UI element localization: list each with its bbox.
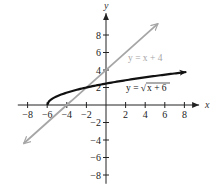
y-tick-label: −6 (90, 152, 101, 163)
label-radicand: x + 6 (147, 83, 167, 93)
label-y-equals-x-plus-4: y = x + 4 (128, 53, 163, 63)
x-tick-label: 2 (123, 109, 128, 120)
label-text: y = √ (126, 83, 147, 93)
y-axis-label: y (103, 0, 109, 11)
y-tick-label: 8 (96, 30, 101, 41)
chart: −8−6−4−22468−8−6−4−22468xy y = x + 4y = … (0, 0, 217, 196)
y-tick-label: −4 (90, 135, 101, 146)
x-tick-label: 4 (143, 109, 148, 120)
axes: −8−6−4−22468−8−6−4−22468xy (18, 0, 210, 184)
labels: y = x + 4y = √x + 6 (126, 53, 170, 93)
y-tick-label: −2 (90, 117, 101, 128)
x-tick-label: 8 (182, 109, 187, 120)
x-tick-label: −4 (61, 109, 72, 120)
y-tick-label: 4 (96, 65, 101, 76)
y-tick-label: 6 (96, 47, 101, 58)
x-tick-label: −8 (22, 109, 33, 120)
label-y-equals-sqrt-x-plus-6: y = √x + 6 (126, 83, 170, 93)
x-tick-label: 6 (162, 109, 167, 120)
x-axis-label: x (204, 99, 210, 110)
y-tick-label: −8 (90, 170, 101, 181)
